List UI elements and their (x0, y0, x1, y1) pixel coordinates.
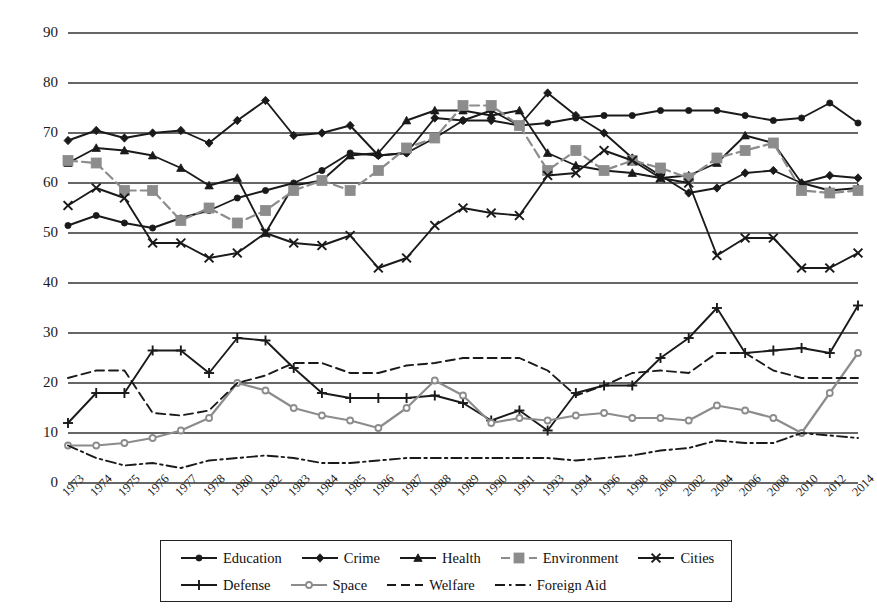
legend-marker (493, 577, 533, 593)
data-point-marker (120, 134, 128, 142)
data-point-marker (430, 391, 440, 401)
data-point-marker (600, 146, 609, 155)
data-point-marker (601, 112, 607, 118)
data-point-marker (741, 169, 749, 177)
data-point-marker (827, 390, 833, 396)
legend-item-welfare[interactable]: Welfare (385, 577, 475, 594)
data-point-marker (712, 153, 722, 163)
data-point-marker (65, 222, 71, 228)
data-point-marker (347, 418, 353, 424)
legend-item-defense[interactable]: Defense (179, 577, 271, 594)
legend-item-space[interactable]: Space (289, 577, 368, 594)
data-point-marker (768, 346, 778, 356)
data-point-marker (178, 428, 184, 434)
data-point-marker (176, 216, 186, 226)
legend-item-education[interactable]: Education (179, 550, 282, 567)
data-point-marker (119, 388, 129, 398)
data-point-marker (121, 440, 127, 446)
data-point-marker (289, 186, 299, 196)
data-point-marker (629, 415, 635, 421)
data-point-marker (656, 163, 666, 173)
data-point-marker (373, 393, 383, 403)
series-line (68, 111, 858, 234)
data-point-marker (740, 146, 750, 156)
data-point-marker (319, 167, 325, 173)
data-point-marker (545, 418, 551, 424)
data-point-marker (263, 388, 269, 394)
y-axis-tick-label: 10 (18, 425, 58, 440)
legend-marker (499, 550, 539, 566)
data-point-marker (797, 186, 807, 196)
data-point-marker (488, 420, 494, 426)
data-point-marker (318, 129, 326, 137)
data-point-marker (573, 413, 579, 419)
data-point-marker (402, 254, 411, 263)
legend-swatch-cities-icon (636, 550, 676, 566)
data-point-marker (854, 249, 863, 258)
data-point-marker (686, 107, 692, 113)
data-point-marker (629, 112, 635, 118)
legend-item-foreign-aid[interactable]: Foreign Aid (493, 577, 607, 594)
data-point-marker (375, 425, 381, 431)
data-point-marker (234, 195, 240, 201)
data-point-marker (460, 393, 466, 399)
data-point-marker (797, 343, 807, 353)
legend-swatch-crime-icon (300, 550, 340, 566)
data-point-marker (770, 415, 776, 421)
chart-legend: EducationCrimeHealthEnvironmentCities De… (160, 540, 732, 602)
data-point-marker (514, 553, 524, 563)
legend-swatch-defense-icon (179, 577, 219, 593)
data-point-marker (148, 186, 158, 196)
data-point-marker (402, 143, 412, 153)
data-point-marker (571, 146, 581, 156)
legend-marker (300, 550, 340, 566)
legend-row-1: EducationCrimeHealthEnvironmentCities (161, 545, 731, 571)
data-point-marker (742, 408, 748, 414)
legend-item-label: Foreign Aid (533, 577, 607, 594)
data-point-marker (486, 101, 496, 111)
y-axis-tick-label: 30 (18, 325, 58, 340)
legend-item-environment[interactable]: Environment (499, 550, 619, 567)
legend-swatch-education-icon (179, 550, 219, 566)
data-point-marker (458, 101, 468, 111)
data-point-marker (206, 415, 212, 421)
series-foreign-aid (68, 433, 858, 468)
legend-marker (636, 550, 676, 566)
legend-item-cities[interactable]: Cities (636, 550, 714, 567)
data-point-marker (713, 184, 721, 192)
data-point-marker (855, 350, 861, 356)
data-point-marker (686, 418, 692, 424)
data-point-marker (233, 174, 241, 182)
data-point-marker (194, 580, 204, 590)
data-point-marker (404, 405, 410, 411)
legend-item-label: Welfare (425, 577, 475, 594)
legend-marker (385, 577, 425, 593)
y-axis-tick-label: 50 (18, 225, 58, 240)
data-point-marker (855, 120, 861, 126)
data-point-marker (713, 251, 722, 260)
series-cities (64, 146, 863, 272)
legend-item-crime[interactable]: Crime (300, 550, 380, 567)
data-point-marker (459, 116, 467, 124)
y-axis-tick-label: 20 (18, 375, 58, 390)
legend-item-health[interactable]: Health (398, 550, 481, 567)
legend-swatch-foreign-aid-icon (493, 577, 533, 593)
data-point-marker (545, 120, 551, 126)
legend-swatch-environment-icon (499, 550, 539, 566)
legend-swatch-health-icon (398, 550, 438, 566)
data-point-marker (714, 107, 720, 113)
data-point-marker (319, 413, 325, 419)
data-point-marker (150, 435, 156, 441)
data-point-marker (92, 184, 101, 193)
data-point-marker (798, 115, 804, 121)
data-point-marker (148, 346, 158, 356)
data-point-marker (714, 403, 720, 409)
legend-marker (289, 577, 329, 593)
data-point-marker (769, 166, 777, 174)
legend-marker (398, 550, 438, 566)
legend-swatch-welfare-icon (385, 577, 425, 593)
legend-item-label: Space (329, 577, 368, 594)
data-point-marker (150, 225, 156, 231)
line-chart: 9080706050403020100 19731974197519761977… (0, 0, 877, 616)
data-point-marker (262, 187, 268, 193)
